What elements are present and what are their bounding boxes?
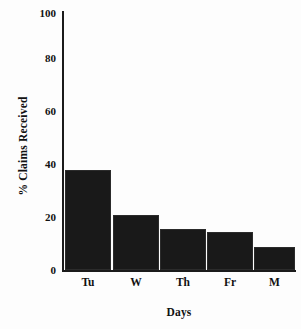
- x-tick-label-m: M: [254, 276, 295, 289]
- bar-th: [160, 229, 206, 270]
- y-tick-label-60: 60: [26, 106, 56, 117]
- bar-m: [254, 247, 295, 270]
- x-tick-label-w: W: [113, 276, 159, 289]
- y-axis-tick-labels: 100 80 60 40 20 0: [24, 0, 56, 329]
- y-tick-label-40: 40: [26, 159, 56, 170]
- y-tick-label-80: 80: [26, 53, 56, 64]
- bars-layer: [62, 12, 296, 270]
- x-axis-line: [62, 270, 296, 272]
- x-tick-label-tu: Tu: [65, 276, 111, 289]
- x-axis-title: Days: [62, 306, 296, 318]
- y-tick-label-0: 0: [26, 265, 56, 276]
- x-tick-label-fr: Fr: [207, 276, 253, 289]
- x-tick-label-th: Th: [160, 276, 206, 289]
- bar-tu: [65, 170, 111, 270]
- bar-chart-figure: % Claims Received 100 80 60 40 20 0 Tu W…: [0, 0, 301, 329]
- y-tick-label-100: 100: [26, 8, 56, 19]
- x-axis-tick-labels: Tu W Th Fr M: [62, 276, 296, 294]
- bar-w: [113, 215, 159, 270]
- bar-fr: [207, 232, 253, 270]
- y-tick-label-20: 20: [26, 212, 56, 223]
